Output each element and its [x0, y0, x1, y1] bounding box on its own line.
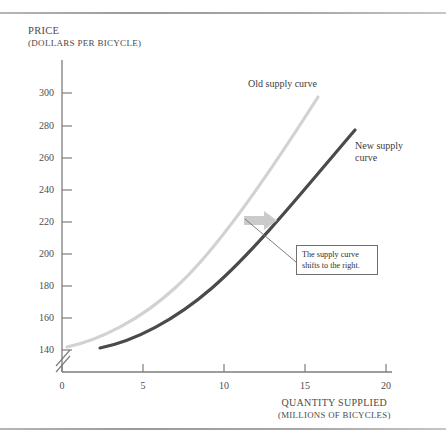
chart-figure: PRICE (DOLLARS PER BICYCLE) QUANTITY SUP…	[0, 0, 446, 446]
x-axis-title-line2: (MILLIONS OF BICYCLES)	[278, 409, 391, 422]
y-tick-label-140: 140	[24, 344, 54, 355]
callout-line1: The supply curve	[302, 249, 373, 260]
new-supply-curve-label: New supply curve	[355, 140, 403, 164]
callout-box: The supply curve shifts to the right.	[296, 245, 378, 275]
x-tick-label-10: 10	[212, 380, 236, 391]
y-axis-ticks	[62, 93, 72, 350]
x-tick-label-0: 0	[50, 380, 74, 391]
new-supply-curve-label-line1: New supply	[355, 140, 403, 151]
y-tick-label-260: 260	[24, 152, 54, 163]
new-supply-curve-label-line2: curve	[355, 152, 377, 163]
y-axis-title-line2: (DOLLARS PER BICYCLE)	[28, 37, 141, 50]
x-axis-title: QUANTITY SUPPLIED (MILLIONS OF BICYCLES)	[278, 396, 391, 422]
y-axis-break-icon	[56, 350, 70, 372]
y-tick-label-160: 160	[24, 312, 54, 323]
y-axis-title: PRICE (DOLLARS PER BICYCLE)	[28, 24, 141, 50]
x-axis-title-line1: QUANTITY SUPPLIED	[278, 396, 391, 409]
x-tick-label-5: 5	[131, 380, 155, 391]
y-axis-title-line1: PRICE	[28, 24, 141, 37]
y-tick-label-220: 220	[24, 216, 54, 227]
y-tick-label-280: 280	[24, 120, 54, 131]
old-supply-curve-label: Old supply curve	[248, 78, 317, 90]
y-tick-label-240: 240	[24, 184, 54, 195]
old-supply-curve	[67, 97, 318, 347]
y-tick-label-200: 200	[24, 248, 54, 259]
x-axis-ticks	[62, 364, 386, 372]
y-tick-label-180: 180	[24, 280, 54, 291]
x-tick-label-20: 20	[374, 380, 398, 391]
callout-line2: shifts to the right.	[302, 260, 373, 271]
x-tick-label-15: 15	[293, 380, 317, 391]
y-tick-label-300: 300	[24, 87, 54, 98]
callout-leader-line	[245, 219, 296, 262]
